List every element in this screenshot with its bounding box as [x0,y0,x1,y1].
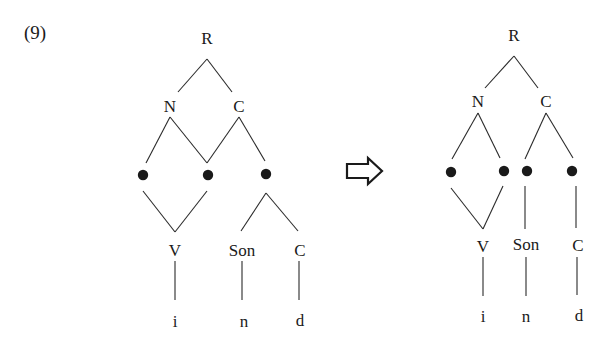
left-coda-label: C [233,97,244,116]
right-phoneme-d: d [575,306,584,325]
left-segment-c: C [294,241,305,260]
left-tree: R N C V Son C i n d [138,29,306,331]
edge-n-slot2 [478,113,500,158]
edge-slot2-v [483,186,503,229]
left-phoneme-d: d [296,311,305,330]
right-phoneme-i: i [481,307,486,326]
edge-n-slot1 [452,113,478,159]
timing-slot-dot [203,170,213,180]
right-tree: R N C V Son C i n d [446,26,584,326]
edge-c-slot3 [239,117,265,161]
edge-r-n [178,59,207,92]
edge-r-c [207,59,232,92]
right-root-label: R [508,26,520,45]
edge-slot2-v [175,191,207,232]
hollow-right-arrow-icon [347,158,382,184]
edge-c-slot4 [546,113,573,158]
edge-slot1-v [451,188,483,229]
left-segment-v: V [169,241,182,260]
timing-slot-dot [499,166,509,176]
timing-slot-dot [446,167,456,177]
edge-c-slot2 [207,117,239,163]
right-segment-son: Son [513,235,540,254]
left-segment-son: Son [229,241,256,260]
edge-r-n [485,56,514,88]
example-number: (9) [24,22,46,44]
right-coda-label: C [540,92,551,111]
left-phoneme-n: n [240,312,249,331]
timing-slot-dot [522,166,532,176]
edge-r-c [514,56,538,88]
right-segment-v: V [477,237,490,256]
right-nucleus-label: N [472,92,484,111]
right-phoneme-n: n [522,307,531,326]
timing-slot-dot [261,169,271,179]
left-nucleus-label: N [164,97,176,116]
timing-slot-dot [138,170,148,180]
edge-slot1-v [143,191,175,232]
timing-slot-dot [567,166,577,176]
syllable-structure-diagram: (9) R N C V Son C i n d R N C [0,0,607,348]
edge-c-slot3 [525,113,546,159]
edge-n-slot2 [170,117,207,163]
left-phoneme-i: i [173,312,178,331]
right-segment-c: C [572,236,583,255]
edge-slot3-son [241,193,266,231]
left-root-label: R [201,29,213,48]
edge-n-slot1 [146,117,170,163]
edge-slot3-c [266,193,298,231]
